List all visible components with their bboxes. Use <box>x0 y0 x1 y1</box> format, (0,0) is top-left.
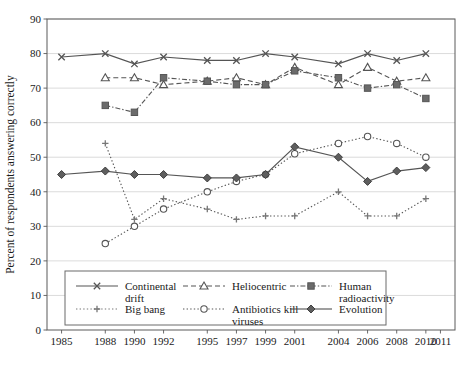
data-point-circle <box>201 306 207 312</box>
x-tick-label: 2001 <box>284 335 306 347</box>
x-tick-label: 1995 <box>196 335 219 347</box>
data-point-circle <box>160 206 166 212</box>
data-point-diamond <box>101 167 109 175</box>
x-tick-label: 1988 <box>94 335 117 347</box>
data-point-triangle <box>232 74 240 81</box>
legend-label: Antibiotics kill <box>232 303 298 315</box>
y-tick-label: 50 <box>30 151 42 163</box>
x-tick-label: 1990 <box>123 335 146 347</box>
x-tick-label: 1997 <box>225 335 248 347</box>
data-point-circle <box>335 140 341 146</box>
x-tick-label: 1999 <box>255 335 278 347</box>
data-point-plus <box>423 195 429 201</box>
x-tick-label: 2004 <box>327 335 350 347</box>
data-point-plus <box>233 216 239 222</box>
legend-label: Big bang <box>125 303 166 315</box>
chart-figure: 0102030405060708090 19851988199019921995… <box>0 0 469 365</box>
series-path <box>62 54 426 64</box>
data-point-square <box>308 283 314 289</box>
y-tick-label: 80 <box>30 47 42 59</box>
x-tick-label: 2006 <box>357 335 380 347</box>
data-point-square <box>233 81 239 87</box>
data-point-square <box>364 85 370 91</box>
data-point-diamond <box>130 171 138 179</box>
series-continental-drift <box>58 50 429 67</box>
series-antibiotics-kill-viruses <box>102 133 429 247</box>
data-point-plus <box>160 195 166 201</box>
data-point-triangle <box>364 63 372 70</box>
data-point-square <box>262 81 268 87</box>
y-tick-label: 70 <box>30 82 42 94</box>
y-tick-label: 40 <box>30 186 42 198</box>
data-point-square <box>131 109 137 115</box>
data-point-plus <box>394 213 400 219</box>
x-tick-label: 2008 <box>386 335 409 347</box>
series-path <box>105 136 426 243</box>
gridlines <box>47 19 455 295</box>
line-chart: 0102030405060708090 19851988199019921995… <box>0 0 469 365</box>
legend-box <box>65 271 386 325</box>
data-point-plus <box>335 189 341 195</box>
data-point-plus <box>262 213 268 219</box>
legend-label: Evolution <box>339 303 383 315</box>
y-tick-label: 30 <box>30 220 42 232</box>
legend-label: radioactivity <box>339 292 395 304</box>
data-point-square <box>102 102 108 108</box>
y-axis-title-text: Percent of respondents answering correct… <box>4 75 17 274</box>
data-point-circle <box>364 133 370 139</box>
data-point-circle <box>204 189 210 195</box>
data-point-circle <box>423 154 429 160</box>
data-point-plus <box>364 213 370 219</box>
legend-label: Continental <box>125 280 176 292</box>
y-axis-title: Percent of respondents answering correct… <box>4 75 17 274</box>
series-path <box>62 147 426 182</box>
legend-label: viruses <box>232 315 263 327</box>
x-tick-label: 1985 <box>51 335 74 347</box>
series-path <box>105 143 426 219</box>
data-point-square <box>204 78 210 84</box>
y-tick-label: 0 <box>36 324 42 336</box>
series-human-radioactivity <box>102 68 429 116</box>
data-point-square <box>335 75 341 81</box>
data-point-plus <box>131 216 137 222</box>
chart-legend: ContinentaldriftHeliocentricHumanradioac… <box>65 271 395 327</box>
legend-label: drift <box>125 292 144 304</box>
y-tick-label: 20 <box>30 255 42 267</box>
y-axis-ticks: 0102030405060708090 <box>30 13 47 336</box>
series-path <box>105 71 426 112</box>
data-point-circle <box>131 223 137 229</box>
data-point-diamond <box>58 171 66 179</box>
y-tick-label: 10 <box>30 289 42 301</box>
y-tick-label: 90 <box>30 13 42 25</box>
data-point-square <box>292 68 298 74</box>
y-tick-label: 60 <box>30 116 42 128</box>
data-point-plus <box>204 206 210 212</box>
data-point-circle <box>102 240 108 246</box>
data-point-plus <box>292 213 298 219</box>
data-point-circle <box>394 140 400 146</box>
data-point-diamond <box>393 167 401 175</box>
series-big-bang <box>102 140 429 222</box>
legend-label: Human <box>339 280 372 292</box>
x-tick-label: 2011 <box>430 335 452 347</box>
legend-label: Heliocentric <box>232 280 286 292</box>
series-layer <box>58 50 430 246</box>
x-axis-ticks: 1985198819901992199519971999200120042006… <box>51 330 452 347</box>
data-point-triangle <box>334 81 342 88</box>
data-point-square <box>423 95 429 101</box>
data-point-diamond <box>422 164 430 172</box>
data-point-square <box>394 81 400 87</box>
data-point-diamond <box>160 171 168 179</box>
data-point-plus <box>102 140 108 146</box>
data-point-square <box>160 75 166 81</box>
x-tick-label: 1992 <box>153 335 175 347</box>
data-point-diamond <box>203 174 211 182</box>
data-point-triangle <box>422 74 430 81</box>
